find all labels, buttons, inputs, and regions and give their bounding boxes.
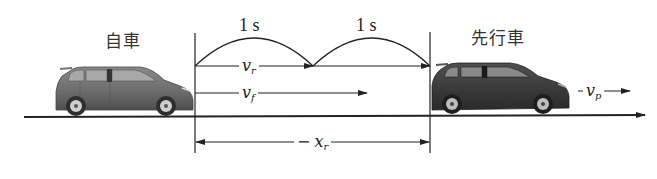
v-r-symbol: v [242,56,251,75]
vehicle-distance-diagram: 自車 先行車 1 s 1 s vr vf −xr vp [0,0,657,179]
x-r-subscript: r [323,141,328,152]
v-r-label: vr [239,58,259,79]
x-r-label: −xr [294,134,331,155]
v-f-subscript: f [251,92,255,103]
preceding-car-icon [432,63,569,114]
v-r-subscript: r [251,65,256,76]
own-vehicle-label: 自車 [105,27,141,52]
v-f-symbol: v [242,83,251,102]
v-p-symbol: v [586,81,595,100]
road-line [24,115,645,117]
v-f-label: vf [239,85,258,106]
interval-label-1: 1 s [239,15,260,36]
x-r-prefix: − [297,132,310,151]
v-p-subscript: p [595,90,601,101]
own-car-icon [56,67,193,116]
v-p-label: vp [583,83,604,104]
interval-arc-2 [313,38,430,66]
interval-label-2: 1 s [356,15,377,36]
preceding-vehicle-label: 先行車 [471,24,525,49]
